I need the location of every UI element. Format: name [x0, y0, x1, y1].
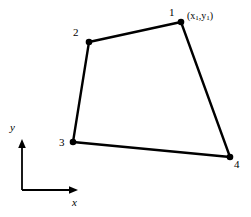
- x-axis-arrowhead-icon: [69, 186, 78, 194]
- edge-2-1: [89, 22, 181, 42]
- node-1-coordinate-label: (x1,y1): [187, 11, 213, 22]
- coordinate-axes: [18, 139, 78, 194]
- y-axis-label: y: [10, 122, 15, 133]
- node-label-1: 1: [169, 7, 175, 18]
- edge-1-4: [181, 22, 230, 157]
- edge-3-2: [73, 42, 89, 142]
- x-axis-label: x: [72, 197, 77, 208]
- quadrilateral-figure: [0, 0, 251, 217]
- element-edges: [73, 22, 230, 157]
- node-marker-2: [86, 39, 93, 46]
- coord-close-paren: ): [210, 10, 213, 21]
- node-label-3: 3: [59, 137, 65, 148]
- node-marker-1: [178, 19, 185, 26]
- edge-4-3: [73, 142, 230, 157]
- node-label-4: 4: [234, 159, 240, 170]
- node-marker-3: [70, 139, 77, 146]
- node-marker-4: [227, 154, 234, 161]
- node-label-2: 2: [73, 27, 79, 38]
- y-axis-arrowhead-icon: [18, 139, 26, 148]
